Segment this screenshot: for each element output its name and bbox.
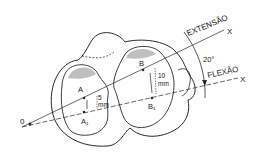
flexion-label: FLEXÃO xyxy=(207,65,240,80)
medial-cartilage-shading xyxy=(68,68,96,79)
point-a-label: A xyxy=(78,85,83,94)
flexion-axis-line xyxy=(22,78,238,127)
dist-a-value: 5 xyxy=(98,94,102,101)
angle-label: 20° xyxy=(203,55,214,64)
point-a1-label: A₁ xyxy=(81,117,89,126)
point-b-label: B xyxy=(139,59,144,68)
dist-b-unit: mm xyxy=(158,80,169,87)
dist-b-value: 10 xyxy=(158,72,166,79)
axis-x-bottom-label: X xyxy=(240,75,246,84)
extension-axis-line xyxy=(22,30,224,127)
tibial-plateau-diagram: EXTENSÃO FLEXÃO X X 20° 0 A A₁ B B₁ 5 mm… xyxy=(0,0,261,161)
point-b1-dot xyxy=(151,97,154,100)
b-displacement-arrow xyxy=(150,73,152,93)
origin-label: 0 xyxy=(20,117,25,126)
b-measure-dashed xyxy=(155,68,156,94)
dist-a-unit: mm xyxy=(98,101,109,108)
point-origin xyxy=(29,123,32,126)
point-b-dot xyxy=(142,69,145,72)
axis-x-top-label: X xyxy=(227,27,233,36)
extension-label: EXTENSÃO xyxy=(185,13,229,38)
point-a-dot xyxy=(83,97,86,100)
point-a1-dot xyxy=(83,111,86,114)
point-b1-label: B₁ xyxy=(148,102,156,111)
lateral-cartilage-shading xyxy=(126,49,156,59)
posterior-dashed-curve xyxy=(82,52,114,58)
